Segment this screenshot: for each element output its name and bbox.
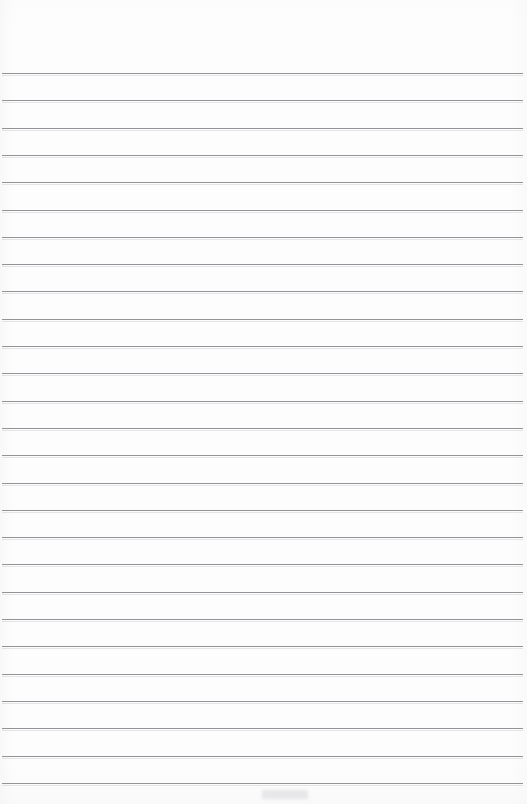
writing-surface[interactable]: [2, 73, 523, 785]
notepad-page: [0, 0, 527, 804]
